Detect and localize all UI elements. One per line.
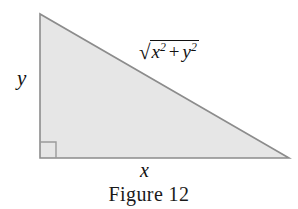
radicand-x-base: x [152, 41, 160, 62]
triangle-shape [40, 14, 289, 158]
radicand-y-base: y [183, 41, 191, 62]
radicand-operator: + [166, 41, 183, 62]
figure-container: y x √ x2+y2 Figure 12 [0, 0, 298, 209]
vertical-leg-label: y [17, 68, 26, 89]
hypotenuse-label: √ x2+y2 [139, 40, 199, 63]
right-triangle-diagram [0, 0, 298, 209]
figure-caption: Figure 12 [0, 183, 298, 206]
radicand-expression: x2+y2 [150, 40, 199, 62]
radicand-x-exponent: 2 [160, 41, 166, 54]
radicand-y-exponent: 2 [191, 41, 197, 54]
horizontal-leg-label: x [140, 160, 149, 180]
